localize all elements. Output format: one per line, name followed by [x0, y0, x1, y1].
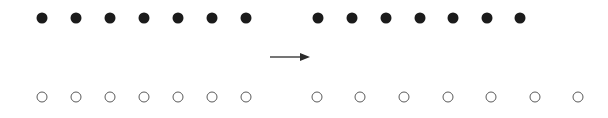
- filled-dot: [241, 13, 252, 24]
- open-circle: [486, 92, 497, 103]
- open-circle: [355, 92, 366, 103]
- arrow-head: [300, 53, 310, 61]
- filled-dot: [448, 13, 459, 24]
- filled-dot: [313, 13, 324, 24]
- filled-dot: [139, 13, 150, 24]
- filled-dot: [347, 13, 358, 24]
- filled-dot: [482, 13, 493, 24]
- open-circle: [105, 92, 116, 103]
- open-circle: [573, 92, 584, 103]
- open-circle: [241, 92, 252, 103]
- filled-dot: [381, 13, 392, 24]
- dot-rows-figure: [0, 0, 608, 118]
- filled-dot: [37, 13, 48, 24]
- open-circle: [173, 92, 184, 103]
- open-circle: [443, 92, 454, 103]
- filled-dot: [173, 13, 184, 24]
- rightward-arrow: [270, 51, 315, 63]
- filled-dot: [71, 13, 82, 24]
- open-circle: [207, 92, 218, 103]
- rightward-arrow-icon: [270, 51, 315, 63]
- filled-dot: [207, 13, 218, 24]
- open-circle: [399, 92, 410, 103]
- open-circle: [139, 92, 150, 103]
- open-circle: [37, 92, 48, 103]
- open-circle: [312, 92, 323, 103]
- open-circle: [530, 92, 541, 103]
- open-circle: [71, 92, 82, 103]
- filled-dot: [105, 13, 116, 24]
- filled-dot: [415, 13, 426, 24]
- filled-dot: [515, 13, 526, 24]
